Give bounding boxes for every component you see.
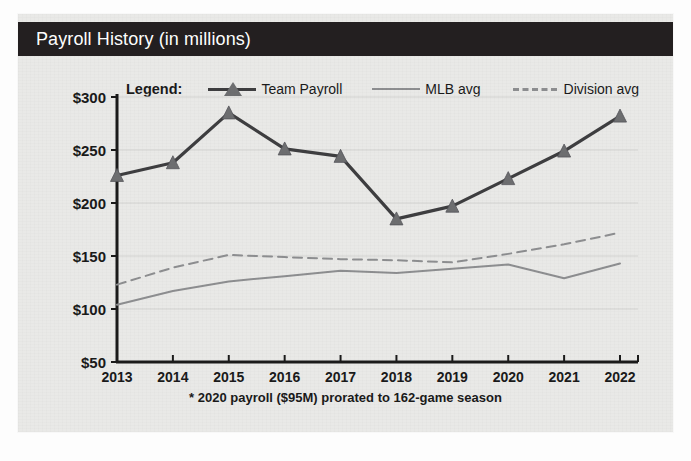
- x-axis-tick-label: 2013: [101, 369, 132, 385]
- series-line-division-avg: [117, 233, 620, 285]
- chart-axes: [116, 94, 638, 362]
- x-axis-tick-label: 2020: [493, 369, 524, 385]
- y-axis-tick-label: $200: [73, 195, 106, 212]
- data-point-marker: [614, 109, 627, 122]
- y-axis-labels: $300$250$200$150$100$50: [73, 89, 106, 371]
- y-axis-tick-label: $250: [73, 142, 106, 159]
- x-axis-tick-label: 2014: [157, 369, 188, 385]
- y-axis-tick-label: $150: [73, 248, 106, 265]
- page-background: Payroll History (in millions) Legend: Te…: [0, 0, 691, 461]
- chart-footnote: * 2020 payroll ($95M) prorated to 162-ga…: [18, 390, 673, 405]
- y-axis-tick-label: $100: [73, 301, 106, 318]
- x-axis-tick-label: 2016: [269, 369, 300, 385]
- x-axis-tick-label: 2015: [213, 369, 244, 385]
- data-point-marker: [222, 106, 235, 119]
- x-axis-labels: 2013201420152016201720182019202020212022: [101, 369, 635, 385]
- payroll-line-chart: $300$250$200$150$100$50 2013201420152016…: [18, 14, 673, 432]
- x-axis-tick-label: 2019: [437, 369, 468, 385]
- x-axis-tick-label: 2021: [549, 369, 580, 385]
- x-axis-tick-label: 2022: [604, 369, 635, 385]
- chart-series: [117, 113, 620, 305]
- chart-plot-area: $300$250$200$150$100$50 2013201420152016…: [18, 14, 673, 432]
- x-axis-tick-label: 2018: [381, 369, 412, 385]
- data-point-marker: [558, 144, 571, 157]
- chart-markers: [111, 106, 627, 225]
- series-line-mlb-avg: [117, 263, 620, 304]
- payroll-history-card: Payroll History (in millions) Legend: Te…: [18, 14, 673, 432]
- y-axis-tick-label: $300: [73, 89, 106, 106]
- x-axis-tick-label: 2017: [325, 369, 356, 385]
